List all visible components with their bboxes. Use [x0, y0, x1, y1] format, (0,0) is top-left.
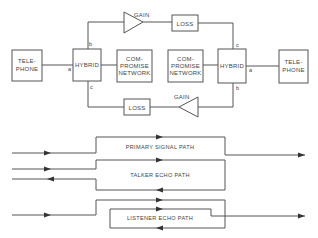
amplifier-triangle-icon	[179, 97, 198, 117]
compromise-network-right: COM- PROMISE NETWORK	[168, 50, 203, 82]
arrow-right-icon	[156, 207, 163, 212]
wire-top-loss-to-right-hybrid	[198, 23, 233, 49]
left-hybrid-port-a: a	[68, 66, 72, 72]
arrow-right-icon	[44, 213, 51, 218]
loss-top-label: LOSS	[177, 21, 194, 27]
gain-top-label: GAIN	[134, 12, 149, 18]
talker-echo-line	[12, 160, 225, 190]
wire-bottom-left-hybrid-to-loss	[88, 81, 124, 107]
loss-bottom-label: LOSS	[129, 105, 146, 111]
arrow-right-icon	[298, 214, 305, 219]
primary-signal-path: PRIMARY SIGNAL PATH	[12, 135, 305, 158]
loss-bottom: LOSS	[124, 99, 150, 115]
left-hybrid-port-c: c	[90, 84, 93, 90]
compromise-left-label-3: NETWORK	[118, 70, 150, 76]
telephone-right: TELE- PHONE	[279, 50, 308, 83]
listener-echo-label: LISTENER ECHO PATH	[127, 215, 193, 221]
compromise-left-label-2: PROMISE	[120, 63, 149, 69]
arrow-left-icon	[156, 226, 163, 231]
arrow-right-icon	[44, 167, 51, 172]
compromise-left-label-1: COM-	[126, 56, 143, 62]
telephone-left-label-1: TELE-	[18, 58, 36, 64]
compromise-right-label-2: PROMISE	[171, 63, 200, 69]
listener-echo-line	[12, 200, 305, 228]
compromise-right-label-3: NETWORK	[169, 70, 201, 76]
arrow-right-icon	[156, 198, 163, 203]
wire-top-path-left	[88, 22, 124, 49]
wire-bottom-gain-to-right-hybrid	[198, 83, 233, 107]
arrow-right-icon	[156, 158, 163, 163]
telephone-right-label-2: PHONE	[282, 67, 304, 73]
listener-echo-path: LISTENER ECHO PATH	[12, 198, 305, 231]
hybrid-right: HYBRID	[218, 49, 246, 83]
arrow-left-icon	[47, 177, 54, 182]
arrow-left-icon	[156, 188, 163, 193]
arrow-right-icon	[44, 151, 51, 156]
compromise-network-left: COM- PROMISE NETWORK	[117, 50, 152, 82]
left-hybrid-port-b: b	[89, 41, 92, 47]
signal-path-diagram: PRIMARY SIGNAL PATH TALKER ECHO PATH LIS…	[12, 135, 305, 231]
telephone-left: TELE- PHONE	[12, 50, 42, 81]
hybrid-left-label: HYBRID	[75, 62, 99, 68]
hybrid-right-label: HYBRID	[220, 63, 244, 69]
right-hybrid-port-a: a	[249, 67, 253, 73]
telephone-network: TELE- PHONE a HYBRID b c COM- PROMISE NE…	[12, 12, 308, 117]
right-hybrid-port-b: b	[236, 85, 239, 91]
primary-path-label: PRIMARY SIGNAL PATH	[126, 144, 195, 150]
talker-echo-path: TALKER ECHO PATH	[12, 158, 225, 193]
talker-echo-label: TALKER ECHO PATH	[130, 172, 190, 178]
compromise-right-label-1: COM-	[177, 56, 194, 62]
arrow-right-icon	[156, 135, 163, 140]
telephone-right-label-1: TELE-	[284, 59, 302, 65]
hybrid-left: HYBRID	[73, 49, 101, 81]
gain-amplifier-bottom: GAIN	[174, 94, 198, 117]
right-hybrid-port-c: c	[236, 42, 239, 48]
loss-top: LOSS	[172, 15, 198, 31]
gain-bottom-label: GAIN	[174, 94, 189, 100]
echo-path-diagram: TELE- PHONE a HYBRID b c COM- PROMISE NE…	[0, 0, 318, 238]
arrow-right-icon	[298, 153, 305, 158]
telephone-left-label-2: PHONE	[16, 66, 38, 72]
